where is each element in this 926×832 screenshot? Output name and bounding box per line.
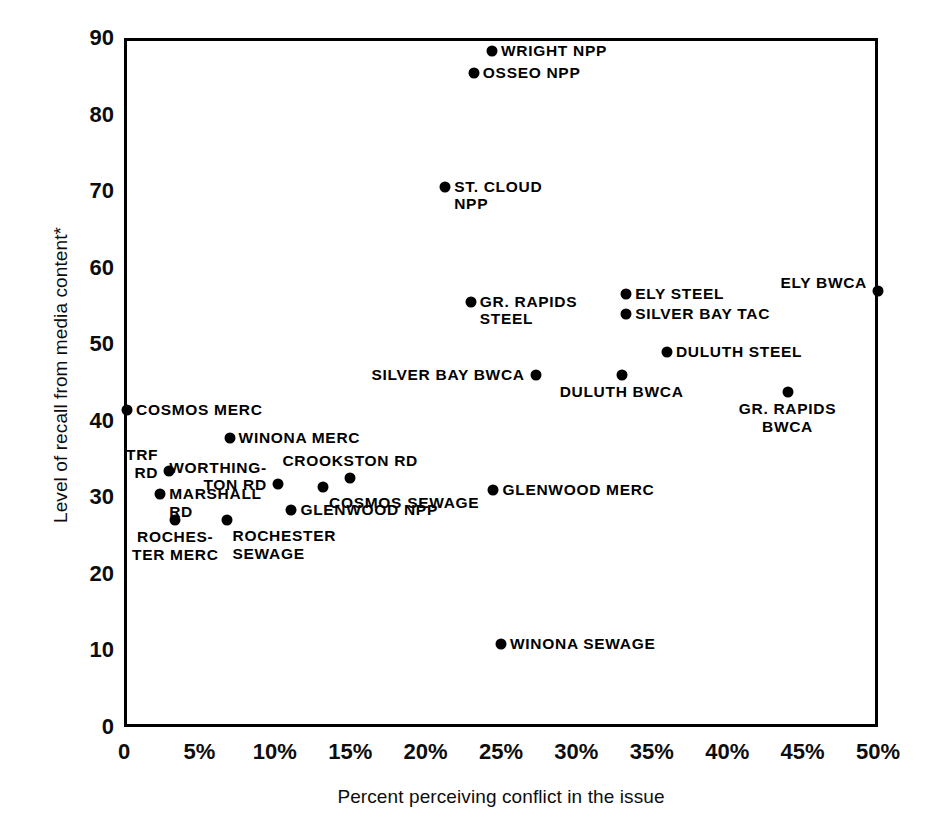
data-point-label: DULUTH BWCA [560,383,684,400]
data-point-label: SILVER BAY TAC [635,305,770,322]
data-point-label: DULUTH STEEL [676,343,802,360]
data-point-label: GLENWOOD MERC [502,481,654,498]
data-point-label: GLENWOOD NPP [300,501,438,518]
x-tick-label: 20% [404,741,448,763]
x-tick-label: 25% [479,741,523,763]
data-point-label: ROCHES- TER MERC [132,528,219,563]
y-axis-tick-labels: 0102030405060708090 [54,0,114,832]
x-tick-label: 10% [253,741,297,763]
y-tick-label: 0 [66,716,114,738]
data-point[interactable] [488,484,499,495]
scatter-plot-figure: Level of recall from media content* 0102… [0,0,926,832]
x-tick-label: 0 [118,741,130,763]
data-point-label: ST. CLOUD NPP [454,177,542,212]
data-point-label: MARSHALL RD [169,485,262,520]
x-tick-label: 5% [183,741,215,763]
data-point[interactable] [224,432,235,443]
data-point-label: CROOKSTON RD [282,452,418,469]
y-tick-label: 70 [66,180,114,202]
x-tick-label: 50% [856,741,900,763]
y-tick-label: 30 [66,486,114,508]
data-point[interactable] [221,515,232,526]
x-tick-label: 15% [328,741,372,763]
data-point[interactable] [170,515,181,526]
data-point-label: WINONA MERC [239,429,361,446]
data-point-label: GR. RAPIDS BWCA [739,400,836,435]
data-point[interactable] [440,181,451,192]
data-point-label: OSSEO NPP [483,65,581,82]
y-tick-label: 20 [66,563,114,585]
data-point[interactable] [616,369,627,380]
x-tick-label: 35% [630,741,674,763]
data-point[interactable] [272,478,283,489]
data-point[interactable] [782,387,793,398]
data-point[interactable] [122,405,133,416]
x-tick-label: 40% [705,741,749,763]
x-axis-title: Percent perceiving conflict in the issue [124,786,878,808]
y-tick-label: 50 [66,333,114,355]
data-point[interactable] [621,308,632,319]
x-tick-label: 30% [554,741,598,763]
data-point-label: ELY BWCA [780,274,867,291]
data-point[interactable] [286,504,297,515]
data-point-label: TRF RD [126,446,158,481]
data-point[interactable] [465,297,476,308]
data-point-label: ROCHESTER SEWAGE [233,527,337,562]
y-tick-label: 80 [66,104,114,126]
data-point[interactable] [621,289,632,300]
data-point[interactable] [661,346,672,357]
data-point[interactable] [468,68,479,79]
data-point-label: COSMOS MERC [136,401,263,418]
data-point[interactable] [155,489,166,500]
data-point-label: GR. RAPIDS STEEL [480,293,577,328]
data-point[interactable] [873,285,884,296]
data-point[interactable] [530,369,541,380]
data-point-label: WRIGHT NPP [501,42,607,59]
x-tick-label: 45% [781,741,825,763]
y-tick-label: 60 [66,257,114,279]
data-point[interactable] [345,473,356,484]
data-point-label: ELY STEEL [635,286,724,303]
data-point[interactable] [496,638,507,649]
y-tick-label: 10 [66,639,114,661]
data-point[interactable] [486,46,497,57]
y-tick-label: 40 [66,410,114,432]
data-point-label: SILVER BAY BWCA [371,366,524,383]
y-tick-label: 90 [66,27,114,49]
data-point-label: WINONA SEWAGE [510,635,655,652]
data-point[interactable] [318,482,329,493]
